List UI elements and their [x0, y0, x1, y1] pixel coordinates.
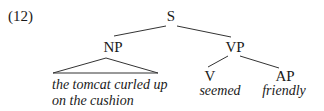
np-triangle [53, 58, 158, 73]
node-np: NP [103, 39, 122, 55]
word-seemed: seemed [199, 83, 241, 98]
node-s: S [167, 8, 175, 24]
node-v: V [205, 68, 216, 84]
syntax-tree-diagram: (12) S NP the tomcat curled up on the cu… [0, 0, 324, 111]
edge-vp-ap [240, 56, 279, 68]
node-vp: VP [225, 39, 244, 55]
edge-s-np [114, 26, 166, 36]
example-number: (12) [8, 8, 33, 25]
node-ap: AP [275, 68, 294, 84]
np-text-line1: the tomcat curled up [52, 77, 167, 92]
edge-vp-v [208, 56, 228, 67]
np-text-line2: on the cushion [52, 93, 134, 108]
edge-s-vp [177, 26, 231, 37]
word-friendly: friendly [262, 83, 306, 98]
